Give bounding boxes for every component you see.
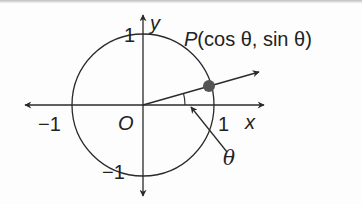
point-p-label: P(cos θ, sin θ) — [184, 28, 312, 50]
angle-arc — [184, 94, 186, 106]
x-pos-one-label: 1 — [218, 113, 229, 135]
terminal-ray — [143, 72, 259, 105]
x-neg-one-label: −1 — [38, 113, 61, 135]
point-p — [203, 80, 215, 92]
angle-theta-label: θ — [223, 146, 235, 170]
unit-circle-diagram: y x O 1 −1 1 −1 P(cos θ, sin θ) θ — [0, 0, 362, 204]
y-neg-one-label: −1 — [102, 161, 125, 183]
y-axis-label: y — [148, 12, 161, 34]
origin-label: O — [118, 112, 134, 134]
y-pos-one-label: 1 — [124, 24, 135, 46]
diagram-canvas: y x O 1 −1 1 −1 P(cos θ, sin θ) θ — [0, 0, 362, 204]
x-axis-label: x — [244, 111, 256, 133]
point-p-coords: (cos θ, sin θ) — [197, 28, 311, 50]
point-p-name: P — [184, 28, 198, 50]
